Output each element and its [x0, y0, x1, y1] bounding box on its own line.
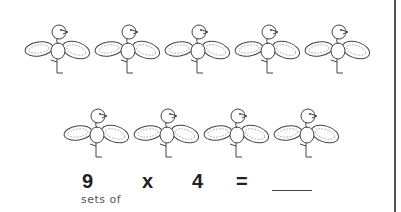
bird-icon [273, 98, 341, 160]
bird-row-2 [63, 98, 341, 160]
bird-icon [133, 98, 201, 160]
bird-icon [304, 14, 372, 76]
groups-number: 9 [82, 170, 93, 193]
bird-icon [164, 14, 232, 76]
bird-icon [234, 14, 302, 76]
operator-caption: sets of [81, 193, 121, 206]
bird-icon [63, 98, 131, 160]
multiply-operator: x [142, 170, 153, 193]
per-group-number: 4 [192, 170, 203, 193]
page-border-right [394, 0, 396, 212]
bird-row-1 [24, 14, 372, 76]
bird-icon [203, 98, 271, 160]
answer-blank[interactable] [272, 190, 312, 191]
bird-icon [94, 14, 162, 76]
bird-icon [24, 14, 92, 76]
equals-sign: = [236, 170, 248, 193]
